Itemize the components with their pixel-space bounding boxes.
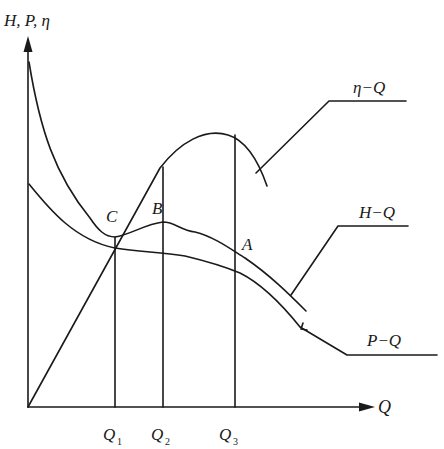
diagram-canvas: H, P, η Q C B A η−Q H−Q P−Q Q 1 Q 2 Q 3: [0, 0, 444, 449]
tick-q3: Q 3: [219, 425, 238, 447]
point-a-label: A: [241, 235, 253, 254]
x-axis: [28, 403, 375, 412]
tick-q2: Q 2: [151, 425, 170, 447]
pump-characteristic-diagram: H, P, η Q C B A η−Q H−Q P−Q Q 1 Q 2 Q 3: [0, 0, 444, 449]
point-c-label: C: [106, 207, 118, 226]
tick-q1: Q 1: [103, 425, 122, 447]
h-q-curve: [29, 62, 306, 311]
p-q-label: P−Q: [366, 331, 401, 350]
eta-q-leader: [256, 101, 406, 173]
h-q-leader: [291, 226, 408, 295]
svg-text:2: 2: [165, 436, 170, 447]
svg-text:1: 1: [117, 436, 122, 447]
svg-text:Q: Q: [151, 425, 163, 444]
h-q-label: H−Q: [358, 203, 395, 222]
y-axis: [24, 36, 33, 407]
p-q-arrow-icon: [301, 323, 307, 330]
svg-text:Q: Q: [103, 425, 115, 444]
point-b-label: B: [152, 199, 163, 218]
eta-q-label: η−Q: [353, 78, 385, 97]
svg-text:Q: Q: [219, 425, 231, 444]
y-axis-label: H, P, η: [3, 11, 50, 30]
x-axis-label: Q: [378, 397, 391, 417]
x-axis-arrow-icon: [359, 403, 375, 412]
y-axis-arrow-icon: [24, 36, 33, 52]
svg-text:3: 3: [233, 436, 238, 447]
